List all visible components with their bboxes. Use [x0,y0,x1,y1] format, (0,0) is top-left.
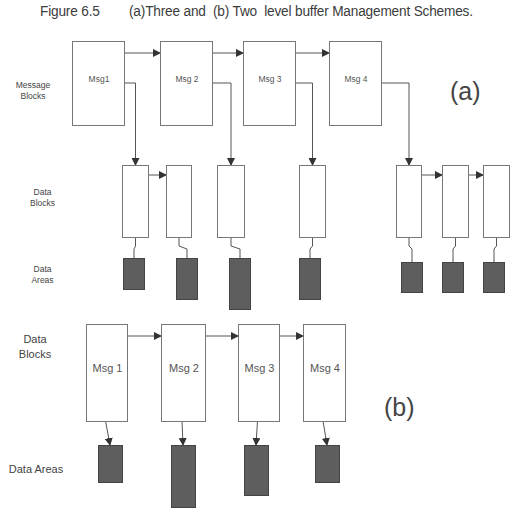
figure-number: Figure 6.5 [40,2,100,20]
data-area [402,263,423,293]
data-area [177,259,198,300]
data-to-area-line [494,237,497,262]
message-to-data-arrow [124,83,136,165]
data-to-area-line [310,237,313,258]
data-to-area-arrow-b [106,421,111,445]
message-block-label: Msg1 [89,74,110,84]
row-label-data-blocks-a: Data Blocks [20,187,65,210]
message-block-label: Msg 2 [175,74,198,84]
data-area [443,263,464,293]
message-to-data-arrow [381,83,409,165]
row-label-message-blocks: Message Blocks [8,80,58,103]
data-block-label: Msg 3 [245,362,275,374]
row-label-data-areas-b: Data Areas [2,462,70,477]
data-block [167,166,192,238]
data-to-area-line [231,237,240,258]
data-to-area-arrow-b [182,421,183,445]
data-area [300,259,321,300]
data-block-label: Msg 4 [310,362,340,374]
data-area-b [99,446,123,483]
data-block-label: Msg 1 [93,362,123,374]
message-block-label: Msg 3 [258,74,281,84]
data-area [124,259,145,290]
part-label-a: (a) [450,77,481,106]
data-to-area-arrow-b [323,421,327,445]
data-to-area-arrow-b [256,421,258,445]
data-area [230,259,251,310]
data-block [484,166,510,238]
message-to-data-arrow [212,83,231,165]
data-to-area-line [179,237,187,258]
data-area-b [316,446,340,483]
data-block [443,166,469,238]
figure-title: (a)Three and (b) Two level buffer Manage… [129,2,473,20]
part-label-b: (b) [384,393,415,422]
data-block [300,166,326,238]
data-block-label: Msg 2 [169,362,199,374]
message-to-data-arrow [295,83,313,165]
data-to-area-line [134,237,136,258]
data-area [484,263,505,293]
row-label-data-areas-a: Data Areas [20,264,65,287]
data-to-area-line [453,237,456,262]
data-block [123,166,149,238]
data-block [397,166,422,238]
data-area-b [172,446,196,508]
data-block [218,166,245,238]
data-to-area-line [409,237,412,262]
data-area-b [245,446,269,496]
row-label-data-blocks-b: Data Blocks [5,332,65,362]
diagram-shapes [73,42,510,508]
message-block-label: Msg 4 [344,74,367,84]
